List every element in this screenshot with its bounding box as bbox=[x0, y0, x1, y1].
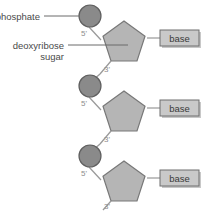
label-5-prime-3: 5' bbox=[81, 169, 87, 178]
nucleotide-unit-3: base 5' 3' bbox=[79, 145, 201, 211]
deoxyribose-callout-label-line1: deoxyribose bbox=[13, 40, 64, 51]
deoxyribose-callout-label-line2: sugar bbox=[40, 51, 64, 62]
phosphate-circle-3 bbox=[79, 145, 101, 167]
deoxyribose-sugar-pentagon-3 bbox=[103, 161, 145, 201]
phosphate-circle-1 bbox=[79, 5, 101, 27]
phosphate-callout-label: phosphate bbox=[0, 11, 40, 22]
nucleotide-chain-diagram: base 5' 3' base 5' 3' bbox=[0, 0, 207, 211]
deoxyribose-sugar-pentagon-1 bbox=[103, 21, 145, 61]
callout-phosphate: phosphate bbox=[0, 11, 79, 22]
deoxyribose-sugar-pentagon-2 bbox=[103, 91, 145, 131]
label-5-prime-2: 5' bbox=[81, 99, 87, 108]
phosphate-to-5prime-bond-1 bbox=[89, 27, 101, 40]
label-5-prime-1: 5' bbox=[81, 29, 87, 38]
label-3-prime-2: 3' bbox=[104, 135, 110, 144]
nucleotide-unit-1: base 5' 3' bbox=[79, 5, 201, 74]
base-label-2: base bbox=[169, 103, 190, 114]
phosphate-to-5prime-bond-2 bbox=[89, 97, 101, 110]
label-3-prime-1: 3' bbox=[104, 65, 110, 74]
phosphate-circle-2 bbox=[79, 75, 101, 97]
phosphate-to-5prime-bond-3 bbox=[89, 167, 101, 180]
diagram-canvas: base 5' 3' base 5' 3' bbox=[0, 0, 207, 211]
base-label-3: base bbox=[169, 173, 190, 184]
nucleotide-unit-2: base 5' 3' bbox=[79, 75, 201, 144]
label-3-prime-3: 3' bbox=[104, 202, 110, 211]
base-label-1: base bbox=[169, 33, 190, 44]
